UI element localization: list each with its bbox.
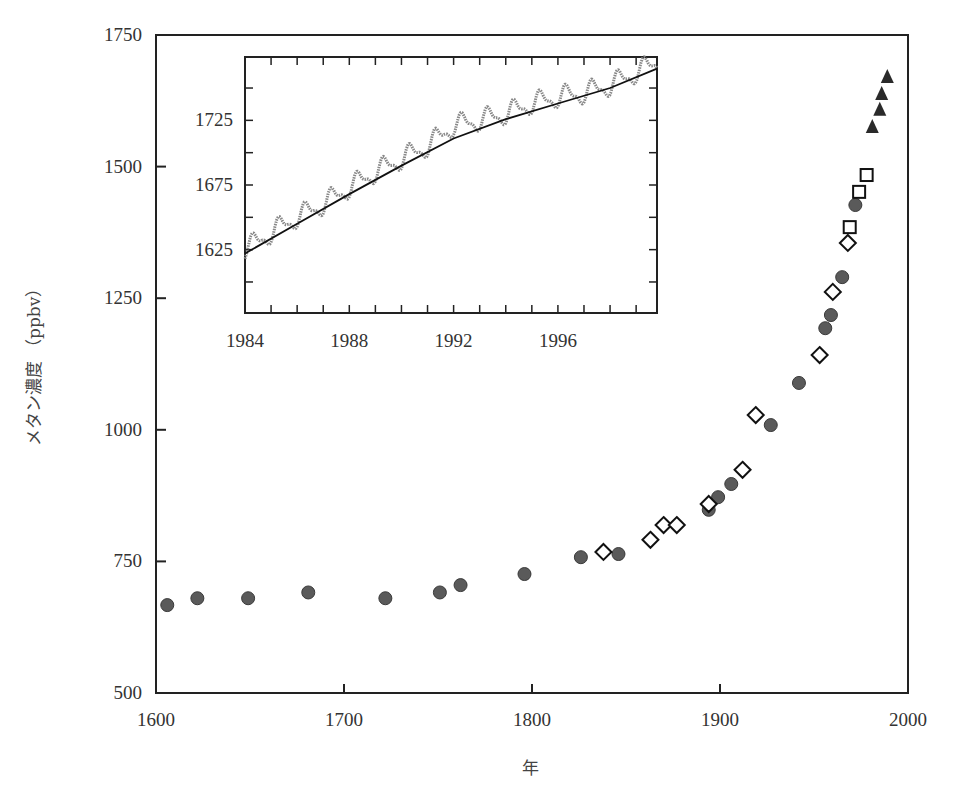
inset-y-tick-label: 1675 <box>195 174 233 195</box>
x-tick-label: 1600 <box>137 709 175 730</box>
circle-point <box>379 592 392 605</box>
diamond-point <box>642 532 658 548</box>
diamond-point <box>735 462 751 478</box>
circle-point <box>302 586 315 599</box>
inset-x-tick-label: 1988 <box>330 330 368 351</box>
x-tick-label: 1900 <box>701 709 739 730</box>
circle-point <box>191 592 204 605</box>
x-tick-label: 1700 <box>325 709 363 730</box>
y-tick-label: 1750 <box>104 24 142 45</box>
diamond-point <box>812 347 828 363</box>
diamond-point <box>748 407 764 423</box>
diamond-point <box>669 517 685 533</box>
circle-point <box>764 419 777 432</box>
circle-point <box>792 376 805 389</box>
circle-point <box>433 586 446 599</box>
diamond-point <box>840 235 856 251</box>
y-tick-label: 1500 <box>104 156 142 177</box>
y-tick-label: 1250 <box>104 287 142 308</box>
inset-x-tick-label: 1984 <box>226 330 265 351</box>
methane-chart: 5007501000125015001750160017001800190020… <box>0 0 959 802</box>
y-axis-title: メタン濃度 （ppbv） <box>24 280 44 447</box>
circle-point <box>836 271 849 284</box>
circle-point <box>518 568 531 581</box>
circle-point <box>725 478 738 491</box>
y-tick-label: 750 <box>114 550 143 571</box>
inset-x-tick-label: 1992 <box>435 330 473 351</box>
diamond-point <box>825 284 841 300</box>
diamond-point <box>595 544 611 560</box>
triangle-point <box>875 86 888 100</box>
x-tick-label: 2000 <box>889 709 927 730</box>
y-tick-label: 500 <box>114 682 143 703</box>
circle-point <box>824 309 837 322</box>
circle-point <box>612 548 625 561</box>
circle-point <box>242 592 255 605</box>
circle-point <box>849 199 862 212</box>
triangle-point <box>873 102 886 116</box>
square-point <box>853 186 865 198</box>
circle-point <box>454 579 467 592</box>
square-point <box>861 169 873 181</box>
square-point <box>844 221 856 233</box>
inset-y-tick-label: 1725 <box>195 109 233 130</box>
inset-border <box>245 57 657 313</box>
circle-point <box>819 322 832 335</box>
x-tick-label: 1800 <box>513 709 551 730</box>
inset-x-tick-label: 1996 <box>539 330 577 351</box>
y-tick-label: 1000 <box>104 419 142 440</box>
x-axis-title: 年 <box>522 758 539 778</box>
inset-plot: 1984198819921996162516751725 <box>195 57 657 351</box>
circle-point <box>574 551 587 564</box>
triangle-point <box>881 69 894 83</box>
inset-y-tick-label: 1625 <box>195 239 233 260</box>
circle-point <box>161 599 174 612</box>
triangle-point <box>866 119 879 133</box>
